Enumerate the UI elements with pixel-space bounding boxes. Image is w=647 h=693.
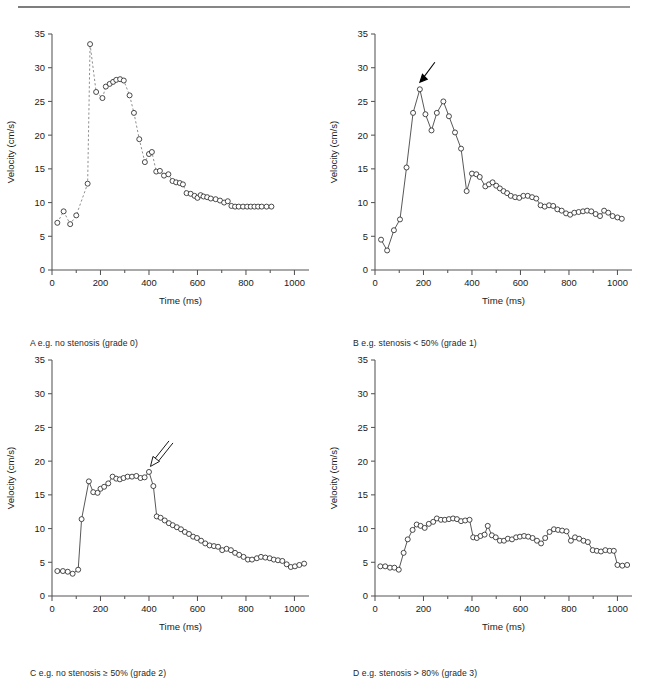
- x-tick-label: 400: [141, 277, 157, 288]
- data-point: [459, 146, 464, 151]
- data-point: [482, 532, 487, 537]
- y-tick-label: 0: [363, 264, 368, 275]
- y-tick-label: 35: [35, 354, 45, 365]
- data-point: [85, 181, 90, 186]
- data-point: [166, 172, 171, 177]
- x-tick-label: 800: [238, 277, 254, 288]
- y-tick-label: 15: [358, 489, 368, 500]
- data-point: [88, 42, 93, 47]
- panel-d: 0510152025303502004006008001000Time (ms)…: [323, 340, 646, 680]
- x-tick-label: 600: [513, 277, 529, 288]
- data-point: [61, 209, 66, 214]
- x-tick-label: 600: [190, 277, 206, 288]
- series-markers: [55, 42, 274, 227]
- x-tick-label: 1000: [284, 277, 305, 288]
- data-point: [625, 562, 630, 567]
- data-point: [410, 527, 415, 532]
- data-point: [94, 89, 99, 94]
- x-tick-label: 1000: [284, 603, 305, 614]
- panel-b-plot: 0510152025303502004006008001000Time (ms)…: [323, 14, 646, 326]
- x-tick-label: 400: [141, 603, 157, 614]
- x-axis-title: Time (ms): [159, 295, 202, 306]
- data-point: [598, 214, 603, 219]
- y-tick-label: 0: [40, 264, 45, 275]
- series-line: [57, 44, 271, 224]
- y-tick-label: 25: [35, 96, 45, 107]
- panel-c-caption: C e.g. no stenosis ≥ 50% (grade 2): [30, 668, 166, 678]
- data-point: [464, 189, 469, 194]
- data-point: [401, 550, 406, 555]
- y-axis-title: Velocity (cm/s): [5, 447, 16, 509]
- x-tick-label: 800: [238, 603, 254, 614]
- data-point: [55, 569, 60, 574]
- y-tick-label: 30: [358, 62, 368, 73]
- data-point: [543, 536, 548, 541]
- data-point: [146, 469, 151, 474]
- x-axis-title: Time (ms): [482, 621, 525, 632]
- series-markers: [379, 87, 625, 253]
- y-tick-label: 20: [358, 456, 368, 467]
- y-tick-label: 25: [35, 422, 45, 433]
- data-point: [106, 481, 111, 486]
- data-point: [411, 110, 416, 115]
- data-point: [423, 112, 428, 117]
- panel-b-svg: 0510152025303502004006008001000Time (ms)…: [323, 14, 646, 326]
- data-point: [180, 182, 185, 187]
- y-tick-label: 5: [363, 557, 368, 568]
- data-point: [74, 213, 79, 218]
- panel-b: 0510152025303502004006008001000Time (ms)…: [323, 14, 646, 354]
- y-tick-label: 25: [358, 96, 368, 107]
- data-point: [70, 571, 75, 576]
- data-point: [264, 204, 269, 209]
- arrow-shaft: [423, 62, 435, 78]
- data-point: [269, 204, 274, 209]
- x-axis-title: Time (ms): [482, 295, 525, 306]
- panel-a: 0510152025303502004006008001000Time (ms)…: [0, 14, 323, 354]
- x-tick-label: 0: [49, 277, 54, 288]
- data-point: [611, 548, 616, 553]
- data-point: [534, 196, 539, 201]
- panel-d-plot: 0510152025303502004006008001000Time (ms)…: [323, 340, 646, 652]
- x-axis-title: Time (ms): [159, 621, 202, 632]
- data-point: [404, 165, 409, 170]
- x-tick-label: 200: [93, 603, 109, 614]
- x-tick-label: 0: [49, 603, 54, 614]
- y-tick-label: 15: [35, 489, 45, 500]
- data-point: [396, 567, 401, 572]
- damped-peak-arrow-icon: [150, 441, 173, 467]
- series-markers: [378, 516, 630, 572]
- data-point: [86, 479, 91, 484]
- data-point: [142, 475, 147, 480]
- x-tick-label: 200: [93, 277, 109, 288]
- y-tick-label: 35: [35, 28, 45, 39]
- data-point: [417, 87, 422, 92]
- y-tick-label: 5: [40, 557, 45, 568]
- data-point: [79, 517, 84, 522]
- x-tick-label: 200: [416, 603, 432, 614]
- y-tick-label: 20: [35, 456, 45, 467]
- x-tick-label: 800: [561, 277, 577, 288]
- data-point: [142, 160, 147, 165]
- data-point: [100, 96, 105, 101]
- data-point: [149, 150, 154, 155]
- y-axis-title: Velocity (cm/s): [328, 121, 339, 183]
- x-tick-label: 1000: [607, 603, 628, 614]
- data-point: [434, 110, 439, 115]
- x-tick-label: 800: [561, 603, 577, 614]
- data-point: [383, 564, 388, 569]
- data-point: [441, 99, 446, 104]
- data-point: [422, 525, 427, 530]
- panel-c: 0510152025303502004006008001000Time (ms)…: [0, 340, 323, 680]
- panel-c-plot: 0510152025303502004006008001000Time (ms)…: [0, 340, 323, 652]
- x-tick-label: 200: [416, 277, 432, 288]
- data-point: [60, 569, 65, 574]
- panel-d-svg: 0510152025303502004006008001000Time (ms)…: [323, 340, 646, 652]
- y-tick-label: 10: [35, 523, 45, 534]
- data-point: [385, 248, 390, 253]
- data-point: [208, 196, 213, 201]
- data-point: [539, 541, 544, 546]
- data-point: [391, 228, 396, 233]
- figure-panel-grid: 0510152025303502004006008001000Time (ms)…: [0, 14, 647, 674]
- x-tick-label: 600: [190, 603, 206, 614]
- data-point: [76, 567, 81, 572]
